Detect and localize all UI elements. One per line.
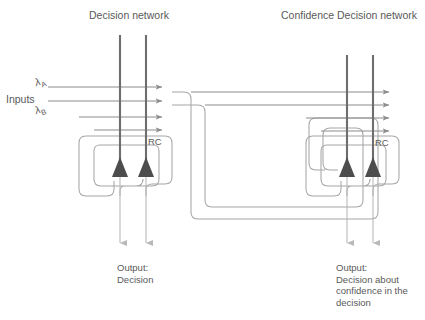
right-output-label: Output:Decision aboutconfidence in thede… [336, 262, 408, 308]
left-output-line-1: Output: [117, 262, 148, 273]
right-soma-neuron-1 [339, 157, 355, 177]
left-network-title: Decision network [89, 9, 169, 22]
left-axons [120, 177, 146, 243]
right-rc-label: RC [375, 137, 389, 149]
right-axons [347, 177, 373, 243]
right-dendrites [347, 55, 373, 166]
right-soma-neuron-2 [365, 157, 381, 177]
right-input-lines [191, 92, 389, 131]
right-output-line-1: Output: [336, 262, 367, 273]
interconnect-inner [172, 105, 363, 207]
right-network-title: Confidence Decision network [281, 9, 417, 22]
left-rc-label: RC [148, 136, 162, 148]
left-soma-neuron-2 [138, 157, 154, 177]
left-soma-neuron-1 [112, 157, 128, 177]
neural-network-diagram: Decision network Confidence Decision net… [0, 0, 425, 320]
right-output-line-4: decision [336, 297, 371, 308]
left-output-label: Output:Decision [117, 262, 153, 285]
left-input-lines [48, 87, 162, 130]
right-output-line-2: Decision about [336, 274, 399, 285]
inputs-label: Inputs [6, 93, 35, 106]
left-output-line-2: Decision [117, 274, 153, 285]
right-output-line-3: confidence in the [336, 285, 408, 296]
